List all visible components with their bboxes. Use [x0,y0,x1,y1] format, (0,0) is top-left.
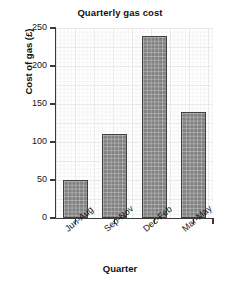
y-axis-tick [50,217,55,218]
y-axis-tick-label: 50 [1,175,47,184]
x-axis-title: Quarter [0,263,240,274]
y-axis-tick [50,179,55,180]
bar [181,112,206,218]
chart-title: Quarterly gas cost [0,7,240,18]
bar-chart: Quarterly gas cost Cost of gas (£) 05010… [0,0,240,282]
x-axis-tick [212,219,213,224]
y-axis-tick [50,65,55,66]
y-axis-tick-label: 200 [1,61,47,70]
bar [102,134,127,218]
y-axis-tick-label: 100 [1,137,47,146]
y-axis-tick [50,141,55,142]
y-axis-tick-label: 0 [1,213,47,222]
y-axis-line [55,27,56,219]
y-axis-tick-label: 150 [1,99,47,108]
bar [142,36,167,218]
y-axis-tick-label: 250 [1,23,47,32]
y-axis-tick [50,27,55,28]
y-axis-tick [50,103,55,104]
